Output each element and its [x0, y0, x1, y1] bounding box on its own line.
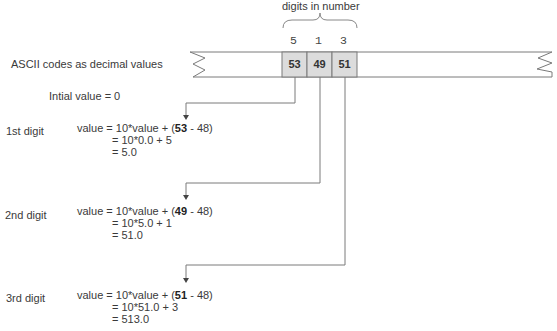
calc-line-3: = 51.0 — [77, 229, 213, 241]
calc-line-2: = 10*0.0 + 5 — [77, 134, 213, 146]
digit-2: 1 — [315, 34, 322, 47]
code-value-1: 53 — [282, 58, 307, 70]
calc-line-3: = 513.0 — [77, 313, 213, 325]
arrow-down-icon — [183, 278, 189, 283]
calc-code: 49 — [175, 205, 187, 217]
calc-text: value = 10*value + ( — [77, 205, 175, 217]
step-label-3: 3rd digit — [6, 292, 45, 304]
calc-text: value = 10*value + ( — [77, 122, 175, 134]
strip-left-break-icon — [190, 52, 205, 77]
code-value-3: 51 — [332, 58, 357, 70]
digit-1: 5 — [290, 34, 297, 47]
connector-3 — [186, 77, 345, 278]
calc-text: - 48) — [187, 289, 213, 301]
arrow-down-icon — [183, 195, 189, 200]
calc-line-3: = 5.0 — [77, 146, 213, 158]
calc-code: 53 — [175, 122, 187, 134]
calc-text: value = 10*value + ( — [77, 289, 175, 301]
step-calc-2: value = 10*value + (49 - 48) = 10*5.0 + … — [77, 205, 213, 241]
digit-3: 3 — [340, 34, 347, 47]
initial-value-label: Intial value = 0 — [49, 90, 120, 102]
step-label-1: 1st digit — [6, 125, 44, 137]
step-calc-1: value = 10*value + (53 - 48) = 10*0.0 + … — [77, 122, 213, 158]
brace-label: digits in number — [282, 0, 358, 12]
code-value-2: 49 — [307, 58, 332, 70]
strip-label: ASCII codes as decimal values — [11, 58, 163, 70]
digits-brace — [283, 13, 357, 28]
step-calc-3: value = 10*value + (51 - 48) = 10*51.0 +… — [77, 289, 213, 325]
arrow-down-icon — [183, 115, 189, 120]
step-label-2: 2nd digit — [5, 209, 47, 221]
diagram-canvas — [0, 0, 557, 331]
calc-line-2: = 10*5.0 + 1 — [77, 217, 213, 229]
connector-1 — [186, 77, 295, 115]
calc-text: - 48) — [187, 122, 213, 134]
calc-line-2: = 10*51.0 + 3 — [77, 301, 213, 313]
calc-code: 51 — [175, 289, 187, 301]
calc-text: - 48) — [187, 205, 213, 217]
strip-right-break-icon — [537, 52, 552, 77]
